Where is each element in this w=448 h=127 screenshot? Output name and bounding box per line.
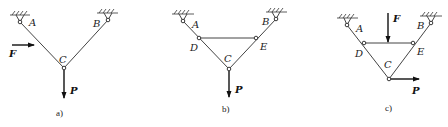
caption-c: c) xyxy=(385,103,392,113)
member-bc xyxy=(389,23,431,79)
node-label-d: D xyxy=(354,48,363,59)
pin-d-icon xyxy=(362,41,366,45)
truss-figure: A B C F P a) A xyxy=(0,0,448,127)
force-label-f: F xyxy=(8,48,17,59)
pin-c-icon xyxy=(62,66,66,70)
node-label-c: C xyxy=(384,59,392,70)
node-label-a: A xyxy=(28,17,36,28)
pin-c-icon xyxy=(227,67,231,71)
pin-a-icon xyxy=(18,20,22,24)
pin-b-icon xyxy=(274,17,278,21)
node-label-b: B xyxy=(416,20,424,31)
pin-a-icon xyxy=(181,19,185,23)
pin-b-icon xyxy=(429,21,433,25)
pin-e-icon xyxy=(254,36,258,40)
node-label-a: A xyxy=(355,23,363,34)
node-label-c: C xyxy=(59,54,67,65)
member-bc xyxy=(64,20,108,68)
node-label-d: D xyxy=(189,42,198,53)
node-label-b: B xyxy=(261,16,269,27)
force-label-p: P xyxy=(411,85,420,96)
pin-b-icon xyxy=(106,18,110,22)
caption-a: a) xyxy=(56,108,63,118)
pin-e-icon xyxy=(411,41,415,45)
panel-c: A B D E C F P c) xyxy=(337,12,442,113)
node-label-a: A xyxy=(191,19,199,30)
pin-d-icon xyxy=(197,36,201,40)
force-label-p: P xyxy=(69,85,78,96)
panel-b: A B D E C P b) xyxy=(172,8,287,114)
node-label-e: E xyxy=(259,41,268,52)
node-label-c: C xyxy=(224,53,232,64)
pin-a-icon xyxy=(345,23,349,27)
panel-a: A B C F P a) xyxy=(8,9,118,118)
pin-c-icon xyxy=(387,77,391,81)
caption-b: b) xyxy=(222,104,230,114)
member-ac xyxy=(347,25,389,79)
node-label-e: E xyxy=(416,46,425,57)
force-label-p: P xyxy=(234,84,243,95)
node-label-b: B xyxy=(92,18,100,29)
force-label-f: F xyxy=(392,13,401,24)
